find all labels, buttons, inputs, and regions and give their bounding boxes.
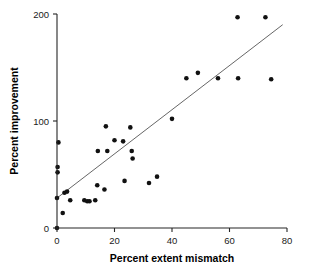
data-point	[112, 138, 117, 143]
data-point	[147, 181, 152, 186]
data-point	[236, 76, 241, 81]
data-point	[60, 211, 65, 216]
tick-labels-group: 0204060800100200	[33, 9, 292, 247]
data-point	[102, 187, 107, 192]
data-point	[87, 199, 92, 204]
scatter-plot-figure: 0204060800100200 Percent extent mismatch…	[0, 0, 311, 275]
data-point	[196, 71, 201, 76]
data-point	[216, 76, 221, 81]
data-point	[55, 170, 60, 175]
data-point	[122, 179, 127, 184]
data-point	[129, 149, 134, 154]
data-point	[104, 124, 109, 129]
data-points-group	[55, 15, 274, 230]
data-point	[68, 198, 73, 203]
x-tick-label: 0	[54, 235, 59, 246]
data-point	[130, 156, 135, 161]
data-point	[65, 189, 70, 194]
trendline	[57, 25, 283, 198]
data-point	[155, 174, 160, 179]
x-tick-label: 20	[109, 235, 120, 246]
trendline-segment	[57, 25, 283, 198]
data-point	[263, 15, 268, 20]
y-tick-label: 100	[33, 116, 49, 127]
data-point	[235, 15, 240, 20]
x-axis-title: Percent extent mismatch	[110, 252, 234, 264]
data-point	[121, 139, 126, 144]
chart-canvas: 0204060800100200 Percent extent mismatch…	[0, 0, 311, 275]
data-point	[170, 117, 175, 122]
data-point	[55, 165, 60, 170]
x-tick-label: 80	[282, 235, 293, 246]
x-tick-label: 60	[224, 235, 235, 246]
y-tick-label: 200	[33, 9, 49, 20]
data-point	[95, 183, 100, 188]
data-point	[128, 125, 133, 130]
data-point	[96, 149, 101, 154]
data-point	[269, 77, 274, 82]
data-point	[105, 149, 110, 154]
data-point	[184, 76, 189, 81]
x-tick-label: 40	[167, 235, 178, 246]
data-point	[93, 198, 98, 203]
y-axis-title: Percent improvement	[8, 67, 20, 175]
y-tick-label: 0	[44, 223, 49, 234]
